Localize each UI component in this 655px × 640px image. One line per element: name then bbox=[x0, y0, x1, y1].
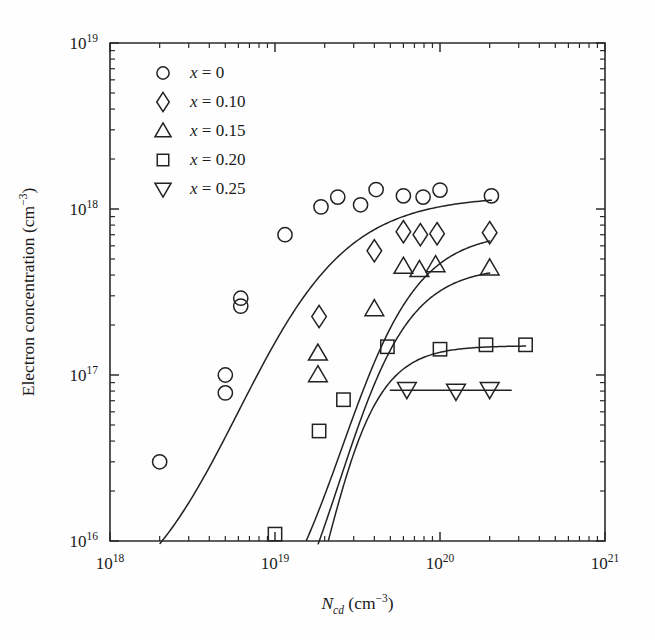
legend-label-4: x = 0.25 bbox=[189, 179, 245, 198]
legend-label-0: x = 0 bbox=[189, 63, 224, 82]
figure-root: 1018101910201021 1016101710181019 x = 0x… bbox=[0, 0, 655, 640]
electron-concentration-chart: 1018101910201021 1016101710181019 x = 0x… bbox=[0, 0, 655, 640]
legend-label-3: x = 0.20 bbox=[189, 150, 245, 169]
y-axis-title: Electron concentration (cm−3) bbox=[17, 188, 38, 397]
legend-label-1: x = 0.10 bbox=[189, 92, 245, 111]
legend-label-2: x = 0.15 bbox=[189, 121, 245, 140]
chart-background bbox=[0, 0, 655, 640]
